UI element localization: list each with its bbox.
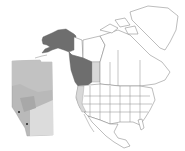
region-alberta (92, 62, 100, 82)
region-alaska (42, 29, 76, 53)
inset-marker (18, 111, 20, 113)
inset-marker (26, 123, 28, 125)
north-america-map (0, 0, 185, 151)
region-united-states (76, 84, 155, 125)
alberta-inset (12, 60, 53, 136)
